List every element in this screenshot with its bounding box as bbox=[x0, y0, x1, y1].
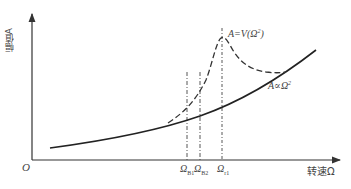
x-axis-label: 转速Ω bbox=[307, 163, 335, 178]
resonance-curve-label: A=V(Ω2) bbox=[228, 28, 264, 39]
square-law-curve bbox=[50, 50, 316, 148]
tick-omega-r1: Ωr1 bbox=[217, 163, 229, 176]
tick-omega-b1: ΩB1 bbox=[180, 163, 194, 176]
diagram-canvas bbox=[0, 0, 351, 189]
y-axis-label: 幅值A bbox=[2, 28, 15, 52]
tick-omega-b2: ΩB2 bbox=[194, 163, 208, 176]
square-law-label: A∝Ω2 bbox=[268, 80, 291, 91]
origin-label: O bbox=[22, 161, 30, 173]
